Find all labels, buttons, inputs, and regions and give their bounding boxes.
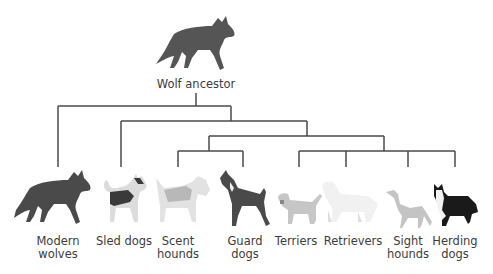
greyhound-icon [384,188,434,230]
doberman-icon [216,168,272,228]
terrier-icon [276,190,324,228]
wolf-icon [12,168,96,226]
tree-lines [0,0,493,274]
leaf-label-herding-dogs: Herding dogs [432,235,477,261]
beagle-icon [152,172,212,226]
leaf-label-sight-hounds: Sight hounds [387,235,429,261]
leaf-label-guard-dogs: Guard dogs [227,235,262,261]
husky-icon [100,170,150,226]
collie-icon [428,182,482,228]
leaf-label-retrievers: Retrievers [324,235,383,248]
leaf-label-terriers: Terriers [275,235,317,248]
retriever-icon [318,180,388,226]
root-label: Wolf ancestor [157,77,236,91]
leaf-label-sled-dogs: Sled dogs [96,235,152,248]
leaf-label-modern-wolves: Modern wolves [36,235,79,261]
leaf-label-scent-hounds: Scent hounds [157,235,199,261]
wolf-ancestor-icon [152,10,242,74]
